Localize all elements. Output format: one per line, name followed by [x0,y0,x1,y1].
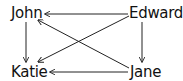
node-jane: Jane [130,64,161,80]
edge-jane-to-john [38,20,129,68]
relationship-diagram: John Edward Katie Jane [0,0,183,81]
node-john: John [11,5,42,21]
node-edward: Edward [129,5,183,21]
edge-edward-to-katie [38,16,129,62]
node-katie: Katie [11,64,48,80]
